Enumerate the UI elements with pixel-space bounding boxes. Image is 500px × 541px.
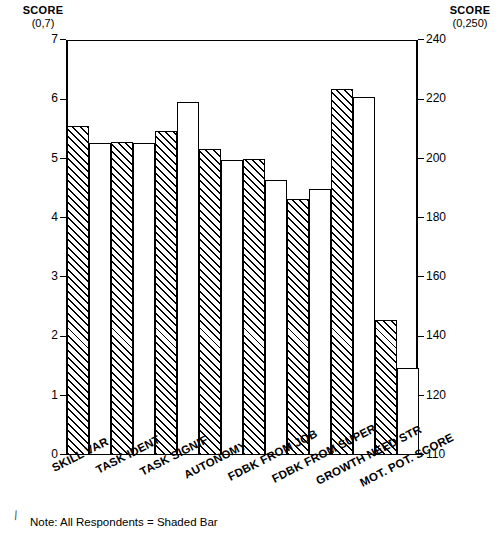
- right-tick-label: 200: [426, 152, 460, 164]
- right-tick-mark: [418, 99, 424, 100]
- bar-shaded: [155, 131, 177, 455]
- bar-shaded: [287, 199, 309, 455]
- right-tick-mark: [418, 276, 424, 277]
- left-axis-caption: SCORE (0,7): [8, 4, 78, 29]
- right-axis-range: (0,250): [440, 17, 500, 30]
- right-tick-label: 160: [426, 270, 460, 282]
- bar-series-layer: [66, 40, 418, 455]
- right-tick-mark: [418, 158, 424, 159]
- right-tick-label: 220: [426, 92, 460, 104]
- bar-open: [177, 102, 199, 455]
- right-tick-label: 180: [426, 211, 460, 223]
- left-tick-label: 3: [34, 270, 58, 282]
- bar-open: [309, 189, 331, 455]
- bar-open: [353, 97, 375, 455]
- right-tick-mark: [418, 39, 424, 40]
- left-tick-label: 2: [34, 329, 58, 341]
- left-tick-label: 6: [34, 92, 58, 104]
- chart-container: SCORE (0,7) SCORE (0,250) 01234567 11012…: [0, 0, 500, 541]
- right-axis-title: SCORE: [440, 4, 500, 17]
- bar-shaded: [111, 142, 133, 455]
- left-tick-label: 4: [34, 211, 58, 223]
- bar-open: [221, 160, 243, 455]
- right-tick-label: 140: [426, 329, 460, 341]
- bar-open: [89, 143, 111, 455]
- bar-shaded: [199, 149, 221, 455]
- bar-open: [265, 180, 287, 455]
- bar-open: [133, 143, 155, 455]
- left-axis-title: SCORE: [8, 4, 78, 17]
- right-tick-label: 120: [426, 389, 460, 401]
- bar-shaded: [67, 126, 89, 455]
- right-axis-caption: SCORE (0,250): [440, 4, 500, 29]
- bar-shaded: [243, 159, 265, 455]
- right-tick-label: 240: [426, 33, 460, 45]
- right-tick-mark: [418, 217, 424, 218]
- category-axis-labels: SKILL VARTASK IDENTTASK SIGNIFAUTONOMYFD…: [0, 455, 500, 515]
- left-axis-range: (0,7): [8, 17, 78, 30]
- left-tick-label: 5: [34, 152, 58, 164]
- bar-shaded: [331, 89, 353, 455]
- right-tick-mark: [418, 336, 424, 337]
- chart-note: Note: All Respondents = Shaded Bar: [30, 516, 218, 528]
- left-tick-label: 7: [34, 33, 58, 45]
- left-tick-label: 1: [34, 389, 58, 401]
